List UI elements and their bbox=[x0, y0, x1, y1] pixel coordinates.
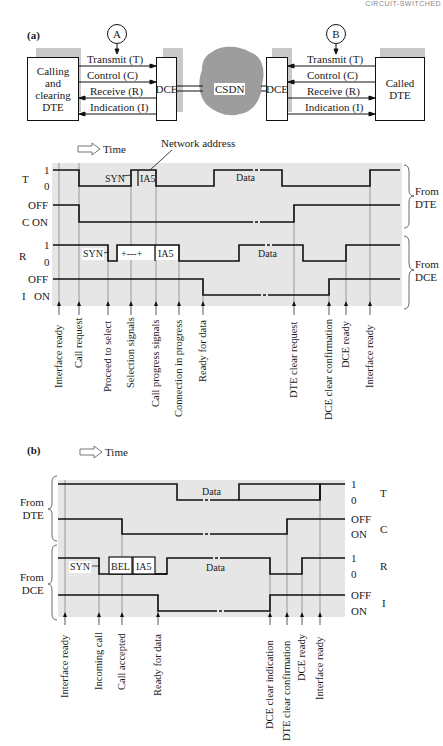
b-r-bel-label: BEL bbox=[111, 561, 130, 573]
group-from-dte-b: From DTE bbox=[20, 496, 44, 522]
event-b-ready-for-data: Ready for data bbox=[152, 634, 163, 696]
event-b-dce-ready: DCE ready bbox=[296, 634, 307, 681]
b-r-syn-label: SYN bbox=[69, 561, 91, 573]
event-b-interface-ready: Interface ready bbox=[59, 635, 70, 698]
b-r-ia5-label: IA5 bbox=[136, 561, 152, 573]
b-signal-i-name: I bbox=[382, 597, 386, 609]
b-signal-t-level-low: 0 bbox=[351, 494, 357, 506]
b-signal-t-level-high: 1 bbox=[351, 478, 357, 490]
b-signal-c-name: C bbox=[380, 523, 387, 535]
b-signal-c-level-high: OFF bbox=[351, 513, 371, 525]
event-b-incoming-call: Incoming call bbox=[93, 632, 104, 690]
b-r-data-label: Data bbox=[206, 562, 225, 574]
event-b-dce-clear-indication: DCE clear indication bbox=[264, 640, 275, 729]
b-t-data-label: Data bbox=[202, 486, 221, 498]
b-signal-c-level-low: ON bbox=[351, 528, 367, 540]
event-b-dte-clear-confirmation: DTE clear confirmation bbox=[281, 641, 292, 741]
event-b-interface-ready-2: Interface ready bbox=[314, 637, 325, 700]
group-from-dce-b: From DCE bbox=[20, 571, 44, 597]
b-signal-i-level-high: OFF bbox=[351, 589, 371, 601]
b-signal-r-level-high: 1 bbox=[351, 552, 357, 564]
b-signal-i-level-low: ON bbox=[351, 605, 367, 617]
b-signal-t-name: T bbox=[380, 487, 387, 499]
event-b-call-accepted: Call accepted bbox=[116, 633, 127, 690]
b-signal-r-level-low: 0 bbox=[351, 568, 357, 580]
b-signal-r-name: R bbox=[380, 560, 387, 572]
